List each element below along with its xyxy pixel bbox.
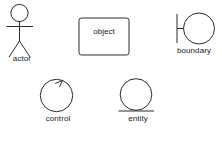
entity-label: entity [114,114,162,124]
actor-label: actor [0,54,44,64]
control-label: control [34,114,82,124]
actor-stick-figure-icon [4,3,44,61]
object-rectangle-icon [78,17,130,57]
object-label: object [78,27,130,37]
control-circle-arrow-icon [38,73,78,115]
entity-circle-underline-icon [116,76,160,114]
boundary-label: boundary [166,46,222,56]
boundary-circle-bar-icon [174,12,218,48]
uml-stereotype-diagram: actor object boundary control entity [0,0,222,143]
